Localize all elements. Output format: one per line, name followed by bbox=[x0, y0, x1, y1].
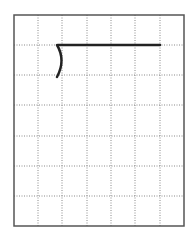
grid-border bbox=[14, 15, 184, 226]
dotted-grid bbox=[14, 15, 184, 226]
grid-figure bbox=[0, 0, 196, 234]
curved-stroke bbox=[57, 45, 62, 77]
